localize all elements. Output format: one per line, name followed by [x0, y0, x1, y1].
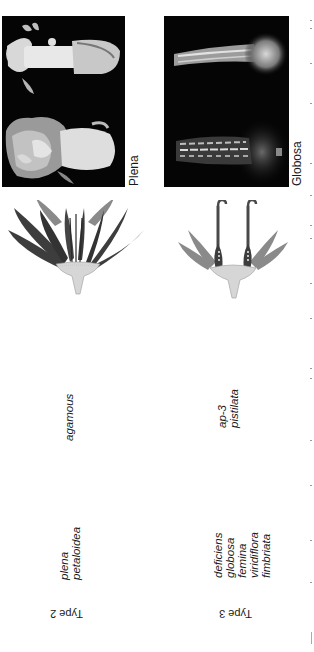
- antirrhinum-mutants-type2: plena petaloidea: [58, 527, 82, 580]
- flower-diagram-type3-icon: [160, 200, 314, 310]
- plena-flower-photo-icon: [2, 16, 125, 187]
- type-label-type2: Type 2: [50, 608, 83, 620]
- photo-globosa: [164, 16, 289, 187]
- antirrhinum-mutants-type3: deficiens globosa femina viridiflora fim…: [212, 532, 272, 578]
- photo-label-globosa: Globosa: [291, 141, 303, 186]
- arabidopsis-mutants-type2: agamous: [63, 394, 75, 441]
- photo-plena: [2, 16, 125, 187]
- globosa-flower-photo-icon: [164, 16, 289, 187]
- arabidopsis-mutants-type3: ap-3 pistilata: [216, 389, 240, 428]
- type-label-type3: Type 3: [219, 608, 252, 620]
- flower-diagram-type2-icon: [0, 200, 160, 310]
- photo-label-plena: Plena: [128, 155, 140, 186]
